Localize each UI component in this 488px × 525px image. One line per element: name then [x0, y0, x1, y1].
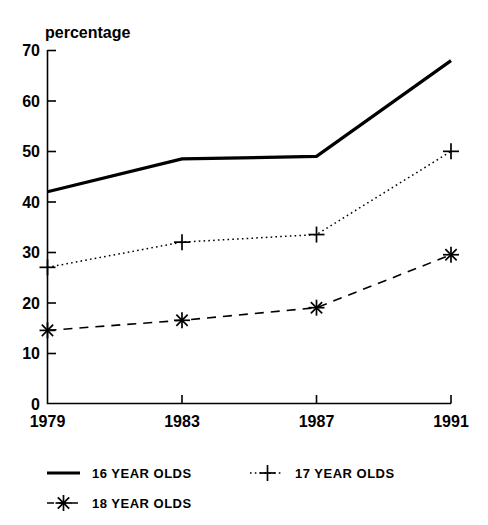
data-point-marker-star	[443, 247, 459, 263]
data-series-layer	[40, 61, 460, 339]
y-tick-label: 20	[22, 295, 40, 312]
x-tick-label: 1991	[433, 413, 469, 430]
x-tick-marks	[182, 395, 451, 404]
x-tick-label: 1983	[164, 413, 200, 430]
y-tick-label: 10	[22, 345, 40, 362]
series-line	[48, 255, 452, 331]
data-point-marker-plus	[443, 143, 459, 159]
series-17-year-olds	[40, 143, 460, 275]
x-tick-labels: 1979 1983 1987 1991	[30, 413, 469, 430]
legend-label: 16 YEAR OLDS	[92, 466, 192, 481]
data-point-marker-plus	[309, 227, 325, 243]
line-chart: percentage 70 60 50 40 30 20 10 0	[0, 0, 488, 525]
x-tick-label: 1987	[299, 413, 335, 430]
legend-label: 18 YEAR OLDS	[92, 496, 192, 511]
y-tick-label: 30	[22, 244, 40, 261]
data-point-marker-star	[40, 322, 56, 338]
data-point-marker-star	[174, 312, 190, 328]
y-axis-title: percentage	[45, 24, 130, 41]
y-tick-labels: 70 60 50 40 30 20 10 0	[22, 42, 40, 413]
series-16-year-olds	[48, 61, 452, 192]
data-point-marker-plus	[174, 234, 190, 250]
chart-legend: 16 YEAR OLDS 17 YEAR OLDS 18 YEAR OL	[47, 465, 395, 511]
legend-entry-16-year-olds: 16 YEAR OLDS	[47, 466, 192, 481]
x-tick-label: 1979	[30, 413, 66, 430]
data-point-marker-star	[309, 300, 325, 316]
y-tick-marks	[48, 51, 57, 354]
y-tick-label: 40	[22, 194, 40, 211]
y-tick-label: 50	[22, 143, 40, 160]
series-18-year-olds	[40, 247, 460, 339]
data-point-marker-plus	[40, 259, 56, 275]
series-line	[48, 151, 452, 267]
y-tick-label: 0	[31, 396, 40, 413]
legend-marker-plus	[260, 465, 276, 481]
series-line	[48, 61, 452, 192]
y-tick-label: 70	[22, 42, 40, 59]
legend-label: 17 YEAR OLDS	[295, 466, 395, 481]
legend-entry-18-year-olds: 18 YEAR OLDS	[47, 495, 192, 511]
legend-entry-17-year-olds: 17 YEAR OLDS	[250, 465, 395, 481]
y-tick-label: 60	[22, 93, 40, 110]
chart-container: percentage 70 60 50 40 30 20 10 0	[0, 0, 488, 525]
legend-marker-star	[56, 495, 72, 511]
